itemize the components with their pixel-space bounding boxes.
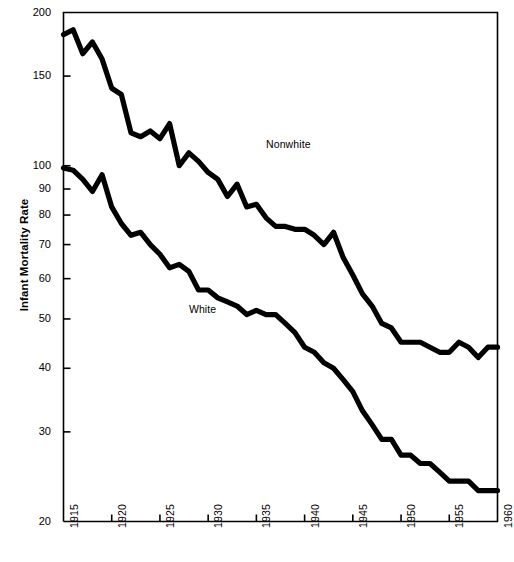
axis-tick-marks [64,76,450,521]
data-series-lines [64,30,498,491]
plot-frame [64,13,498,522]
